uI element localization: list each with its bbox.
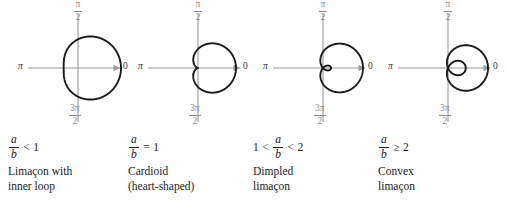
ratio-denominator: b [379,149,389,161]
axis-label-pi-over-2-numerator: π [320,0,327,10]
curve-name-inner-loop: Limaçon with inner loop [8,164,72,194]
ratio-fraction: ab [129,134,139,160]
axis-label-3pi-over-2-denominator: 2 [71,117,78,127]
ratio-numerator: a [379,134,389,146]
ratio-fraction: ab [379,134,389,160]
condition-relation: < [23,141,30,153]
ratio-condition-convex: ab≥2 [378,134,409,160]
axis-arrow-icon [114,65,121,71]
panel-cardioid: π23π2π0ab=1Cardioid (heart-shaped) [128,0,254,207]
axis-label-3pi-over-2: 3π2 [189,104,201,126]
axis-label-pi: π [388,61,393,71]
condition-relation: < [288,141,295,153]
condition-relation: ≥ [393,141,399,153]
axis-label-pi: π [138,61,143,71]
ratio-denominator: b [273,149,283,161]
condition-value: 2 [403,141,409,153]
curve-name-cardioid: Cardioid (heart-shaped) [128,164,194,194]
condition-value: 2 [298,141,304,153]
ratio-condition-inner-loop: ab<1 [8,134,39,160]
polar-plot-convex: π23π2π0 [378,0,504,130]
polar-plot-inner-loop: π23π2π0 [8,0,134,130]
axis-label-3pi-over-2: 3π2 [69,104,81,126]
ratio-fraction: ab [9,134,19,160]
curve-name-convex: Convex limaçon [378,164,415,194]
axis-label-3pi-over-2-denominator: 2 [441,117,448,127]
axis-label-pi-over-2-numerator: π [445,0,452,10]
axis-label-pi-over-2: π2 [444,0,452,22]
condition-lower-relation: < [262,141,269,153]
axis-label-pi: π [263,61,268,71]
axis-label-zero: 0 [368,61,373,71]
polar-plot-cardioid: π23π2π0 [128,0,254,130]
axis-arrow-icon [359,65,366,71]
axis-label-pi-over-2-numerator: π [75,0,82,10]
axis-label-pi-over-2: π2 [74,0,82,22]
axis-label-3pi-over-2-numerator: 3π [69,104,81,114]
condition-value: 1 [33,141,39,153]
axis-arrow-icon [484,65,491,71]
condition-lower-bound: 1 [253,141,259,153]
ratio-numerator: a [9,134,19,146]
axis-label-pi-over-2: π2 [319,0,327,22]
ratio-condition-dimpled: 1<ab<2 [253,134,303,160]
axis-label-3pi-over-2-numerator: 3π [189,104,201,114]
ratio-denominator: b [129,149,139,161]
panel-inner-loop: π23π2π0ab<1Limaçon with inner loop [8,0,134,207]
axis-label-pi-over-2-numerator: π [195,0,202,10]
axis-label-pi: π [18,61,23,71]
ratio-denominator: b [9,149,19,161]
condition-value: 1 [153,141,159,153]
condition-relation: = [143,141,150,153]
axis-label-3pi-over-2-denominator: 2 [316,117,323,127]
panel-dimpled: π23π2π01<ab<2Dimpled limaçon [253,0,379,207]
ratio-condition-cardioid: ab=1 [128,134,159,160]
ratio-numerator: a [129,134,139,146]
axis-label-zero: 0 [243,61,248,71]
axis-label-3pi-over-2: 3π2 [439,104,451,126]
ratio-numerator: a [273,134,283,146]
axis-label-3pi-over-2-numerator: 3π [314,104,326,114]
axis-label-pi-over-2: π2 [194,0,202,22]
axis-label-3pi-over-2: 3π2 [314,104,326,126]
axis-label-pi-over-2-denominator: 2 [445,13,452,23]
panel-convex: π23π2π0ab≥2Convex limaçon [378,0,504,207]
axis-label-pi-over-2-denominator: 2 [75,13,82,23]
polar-plot-dimpled: π23π2π0 [253,0,379,130]
axis-label-zero: 0 [493,61,498,71]
axis-label-3pi-over-2-denominator: 2 [191,117,198,127]
axis-label-3pi-over-2-numerator: 3π [439,104,451,114]
axis-label-pi-over-2-denominator: 2 [320,13,327,23]
axis-label-pi-over-2-denominator: 2 [195,13,202,23]
limacon-figure: π23π2π0ab<1Limaçon with inner loopπ23π2π… [0,0,506,207]
curve-name-dimpled: Dimpled limaçon [253,164,293,194]
ratio-fraction: ab [273,134,283,160]
